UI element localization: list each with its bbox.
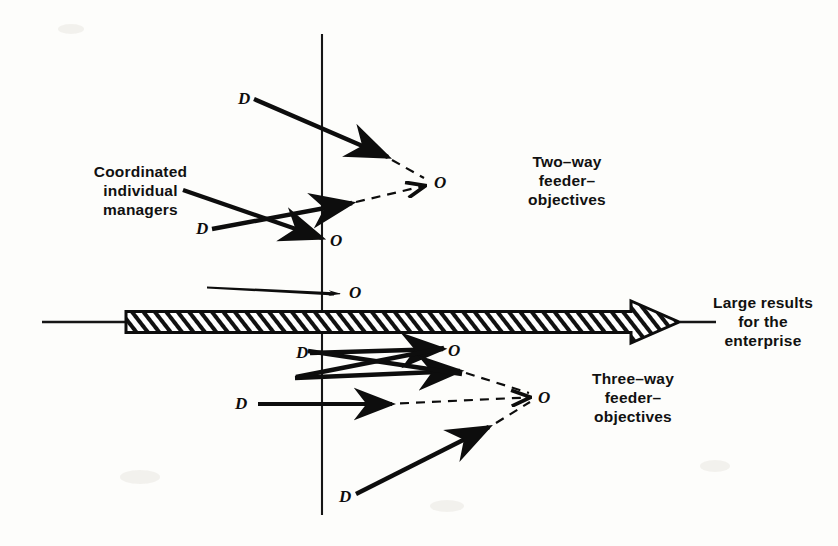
label-large-results: Large results for the enterprise (692, 293, 834, 350)
node-label-d-upper-2: D (196, 220, 208, 237)
node-label-o-upper-1: O (434, 174, 446, 191)
label-coordinated-managers: Coordinated individual managers (58, 162, 223, 219)
node-label-d-lower-1: D (296, 344, 308, 361)
node-label-d-lower-3: D (339, 488, 351, 505)
node-label-d-lower-2: D (235, 395, 247, 412)
flow-upper-3-dashed (356, 186, 424, 202)
node-label-d-upper-1: D (238, 90, 250, 107)
figure-canvas: Coordinated individual managers Two–way … (0, 0, 838, 546)
flow-lower-3-dashed (400, 397, 529, 403)
flow-lower-4-dashed (496, 402, 530, 423)
flow-lower-2-dashed (466, 373, 529, 393)
flow-upper-4-taper (207, 287, 334, 296)
flow-upper-1-dashed (392, 160, 424, 178)
label-three-way-feeder: Three–way feeder– objectives (558, 369, 708, 426)
large-results-arrow (126, 301, 679, 343)
node-label-o-upper-2: O (330, 232, 342, 249)
three-way-feeder-group (258, 348, 530, 494)
node-label-o-lower-2: O (538, 389, 550, 406)
flow-lower-4-solid (356, 427, 489, 494)
diagram-svg (0, 0, 838, 546)
label-two-way-feeder: Two–way feeder– objectives (492, 152, 642, 209)
node-label-o-upper-3: O (349, 284, 361, 301)
node-label-o-lower-1: O (448, 342, 460, 359)
